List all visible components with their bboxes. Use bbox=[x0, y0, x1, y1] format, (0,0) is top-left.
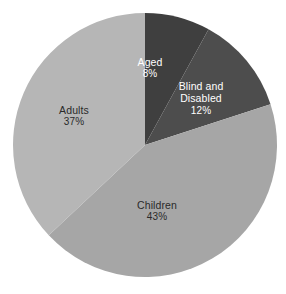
pie-slice-group bbox=[13, 13, 277, 277]
slice-label-children: Children 43% bbox=[114, 199, 200, 223]
slice-label-aged: Aged 8% bbox=[122, 56, 178, 80]
slice-label-adults-name: Adults bbox=[38, 104, 110, 116]
slice-label-aged-value: 8% bbox=[122, 68, 178, 80]
slice-label-blind-and-disabled-name-line1: Blind and bbox=[158, 80, 244, 92]
slice-label-adults: Adults 37% bbox=[38, 104, 110, 128]
slice-label-children-name: Children bbox=[114, 199, 200, 211]
slice-label-children-value: 43% bbox=[114, 211, 200, 223]
pie-chart-figure: Aged 8% Blind and Disabled 12% Adults 37… bbox=[0, 0, 286, 294]
slice-label-blind-and-disabled-value: 12% bbox=[158, 105, 244, 117]
slice-label-blind-and-disabled-name-line2: Disabled bbox=[158, 92, 244, 104]
slice-label-adults-value: 37% bbox=[38, 116, 110, 128]
pie-chart-svg bbox=[0, 0, 286, 294]
slice-label-aged-name: Aged bbox=[122, 56, 178, 68]
slice-label-blind-and-disabled: Blind and Disabled 12% bbox=[158, 80, 244, 117]
